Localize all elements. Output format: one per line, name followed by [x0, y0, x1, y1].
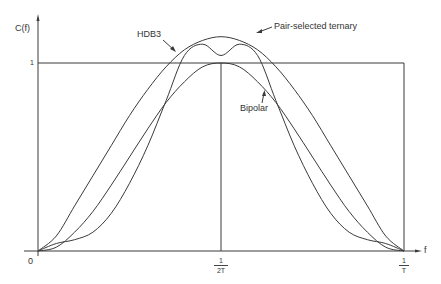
x-axis-arrow-icon	[415, 250, 422, 253]
x-tick-end-num: 1	[399, 257, 409, 264]
x-tick-half-num: 1	[214, 257, 228, 264]
x-tick-end-den: T	[399, 267, 409, 274]
x-axis-label: f	[424, 246, 427, 255]
x-tick-half-baud: 1 2T	[214, 257, 228, 274]
hdb3-label: HDB3	[137, 30, 161, 39]
origin-label: 0	[28, 257, 33, 266]
chart-canvas	[0, 0, 441, 284]
pair-selected-arrow-icon	[256, 29, 262, 33]
bipolar-label: Bipolar	[240, 104, 268, 113]
x-tick-baud: 1 T	[399, 257, 409, 274]
x-tick-half-den: 2T	[214, 267, 228, 274]
pair-selected-ternary-label: Pair-selected ternary	[274, 22, 357, 31]
y-axis-arrow-icon	[37, 14, 40, 21]
y-tick-one: 1	[30, 59, 34, 66]
bipolar-arrow-icon	[262, 90, 266, 96]
y-axis-label: C(f)	[15, 24, 30, 33]
